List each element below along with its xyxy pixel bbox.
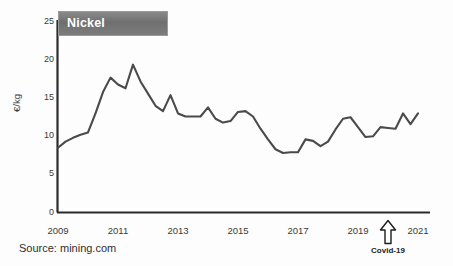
y-tick-5: 5 bbox=[32, 169, 54, 178]
y-tick-15: 15 bbox=[32, 93, 54, 102]
x-tick-2013: 2013 bbox=[167, 226, 188, 236]
x-tick-2017: 2017 bbox=[287, 226, 308, 236]
y-tick-25: 25 bbox=[32, 17, 54, 26]
up-arrow-icon bbox=[378, 219, 398, 245]
source-note: Source: mining.com bbox=[19, 243, 116, 254]
y-tick-10: 10 bbox=[32, 131, 54, 140]
nickel-series-line bbox=[58, 65, 418, 153]
chart-page: Nickel €/kg 2520151050 20092011201320152… bbox=[0, 0, 453, 266]
covid-19-annotation: Covid-19 bbox=[357, 219, 419, 263]
y-tick-20: 20 bbox=[32, 55, 54, 64]
x-tick-2011: 2011 bbox=[108, 226, 128, 236]
chart-title-banner: Nickel bbox=[58, 11, 168, 36]
chart-title-label: Nickel bbox=[59, 17, 105, 30]
x-tick-2009: 2009 bbox=[47, 226, 68, 236]
y-tick-0: 0 bbox=[32, 208, 54, 217]
y-axis-title: €/kg bbox=[12, 94, 22, 112]
covid-19-label: Covid-19 bbox=[357, 247, 419, 255]
x-tick-2015: 2015 bbox=[227, 226, 248, 236]
